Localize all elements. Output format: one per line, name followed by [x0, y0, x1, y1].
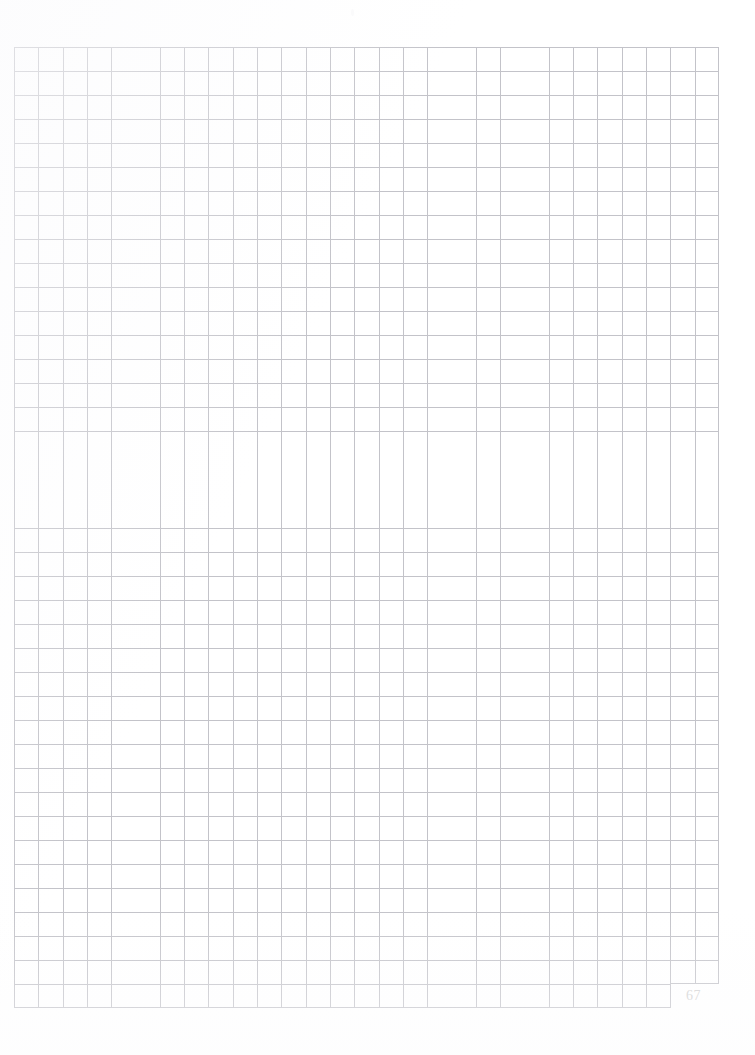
page-number: 67	[686, 988, 701, 1004]
grid-edge-bottom	[14, 1007, 719, 1008]
scan-artifact-speck	[351, 9, 354, 16]
grid-area	[14, 47, 719, 1008]
grid-paper-page: 67	[0, 0, 755, 1055]
grid-edge-right	[718, 47, 719, 1008]
grid-lines	[14, 47, 719, 1008]
grid-notch-edge-top	[671, 983, 719, 984]
grid-notch-edge-left	[670, 984, 671, 1008]
